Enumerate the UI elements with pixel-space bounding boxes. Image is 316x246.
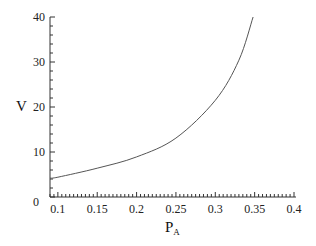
x-axis-ticks: 0.10.150.20.250.30.350.4	[50, 192, 302, 216]
x-tick-label: 0.4	[287, 202, 302, 216]
y-tick-label: 20	[33, 100, 45, 114]
x-tick-label: 0.15	[87, 202, 108, 216]
y-tick-label: 30	[33, 55, 45, 69]
x-tick-label: 0.1	[50, 202, 65, 216]
x-axis-label: PA	[165, 219, 180, 237]
x-tick-label: 0.35	[244, 202, 265, 216]
y-axis-label: V	[16, 98, 27, 114]
x-tick-label: 0.25	[165, 202, 186, 216]
x-tick-label: 0.2	[129, 202, 144, 216]
data-curve	[50, 17, 253, 178]
y-tick-label: 10	[33, 145, 45, 159]
y-tick-label: 0	[33, 195, 39, 209]
x-axis-label-subscript: A	[173, 227, 180, 237]
y-tick-label: 40	[33, 10, 45, 24]
x-tick-label: 0.3	[208, 202, 223, 216]
y-axis-ticks: 010203040	[33, 10, 55, 209]
x-axis-label-main: P	[165, 219, 173, 235]
line-chart: 010203040 0.10.150.20.250.30.350.4 V PA	[0, 0, 316, 246]
